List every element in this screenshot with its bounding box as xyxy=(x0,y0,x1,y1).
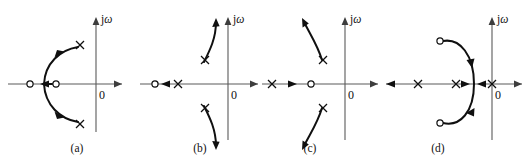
origin-label-a: 0 xyxy=(99,88,105,102)
zero-real-c xyxy=(308,81,314,87)
panel-c: jω 0 (c) xyxy=(262,13,378,155)
real-axis-arrow-toward-breakaway-left-d xyxy=(477,80,486,87)
omega-label-d: ω xyxy=(500,13,508,25)
pole-upper-right-a xyxy=(76,41,84,49)
real-axis-arrow-left-b xyxy=(161,80,170,87)
imaginary-axis-label-b: jω xyxy=(232,13,244,26)
imaginary-axis-arrowhead-d xyxy=(489,17,496,25)
zero-upper-left-d xyxy=(437,38,443,44)
locus-arrowhead-a-lower xyxy=(55,112,65,120)
root-locus-canvas: jω 0 (a) xyxy=(0,0,531,166)
imaginary-axis-label-a: jω xyxy=(100,13,112,26)
origin-label-b: 0 xyxy=(231,88,237,102)
imaginary-axis-label-d: jω xyxy=(496,13,508,26)
omega-label-a: ω xyxy=(104,13,112,25)
imaginary-axis-label-c: jω xyxy=(349,13,361,26)
zero-outer-left-a xyxy=(27,81,33,87)
pole-lower-right-a xyxy=(76,120,84,128)
origin-label-c: 0 xyxy=(348,88,354,102)
panel-caption-b: (b) xyxy=(193,142,207,155)
pole-lower-c xyxy=(319,104,327,112)
omega-label-b: ω xyxy=(236,13,244,25)
imaginary-axis-arrowhead-c xyxy=(342,17,349,25)
imaginary-axis-arrowhead-a xyxy=(93,17,100,25)
zero-far-left-b xyxy=(152,81,158,87)
panel-d: jω 0 xyxy=(386,13,522,155)
real-axis-arrowhead-a xyxy=(114,81,122,88)
locus-branch-b-upper xyxy=(204,22,216,62)
pole-upper-b xyxy=(201,56,209,64)
real-axis-arrowhead-b xyxy=(250,81,258,88)
locus-arrowhead-b-upper xyxy=(212,18,219,27)
panel-b: jω 0 (b) xyxy=(140,13,258,155)
real-axis-arrow-toward-breakaway-right-d xyxy=(461,80,470,87)
locus-arrowhead-b-lower xyxy=(212,141,219,150)
real-axis-arrow-right-c xyxy=(288,80,297,87)
real-axis-arrowhead-c xyxy=(370,81,378,88)
real-axis-arrowhead-d xyxy=(514,81,522,88)
panel-caption-a: (a) xyxy=(71,142,84,155)
locus-branch-c-upper xyxy=(304,22,322,60)
locus-branch-b-lower xyxy=(204,106,216,146)
imaginary-axis-arrowhead-b xyxy=(225,17,232,25)
panel-caption-c: (c) xyxy=(304,142,317,155)
zero-inner-a xyxy=(53,81,59,87)
root-locus-figure: jω 0 (a) xyxy=(0,0,531,166)
locus-arrowhead-d-upper xyxy=(467,59,475,69)
zero-lower-left-d xyxy=(437,120,443,126)
omega-label-c: ω xyxy=(353,13,361,25)
panel-a: jω 0 (a) xyxy=(8,13,122,155)
real-axis-arrow-far-left-d xyxy=(386,80,395,87)
pole-upper-c xyxy=(319,56,327,64)
origin-label-d: 0 xyxy=(495,88,501,102)
pole-lower-b xyxy=(201,104,209,112)
panel-caption-d: (d) xyxy=(431,142,445,155)
locus-branch-c-lower xyxy=(304,108,322,146)
